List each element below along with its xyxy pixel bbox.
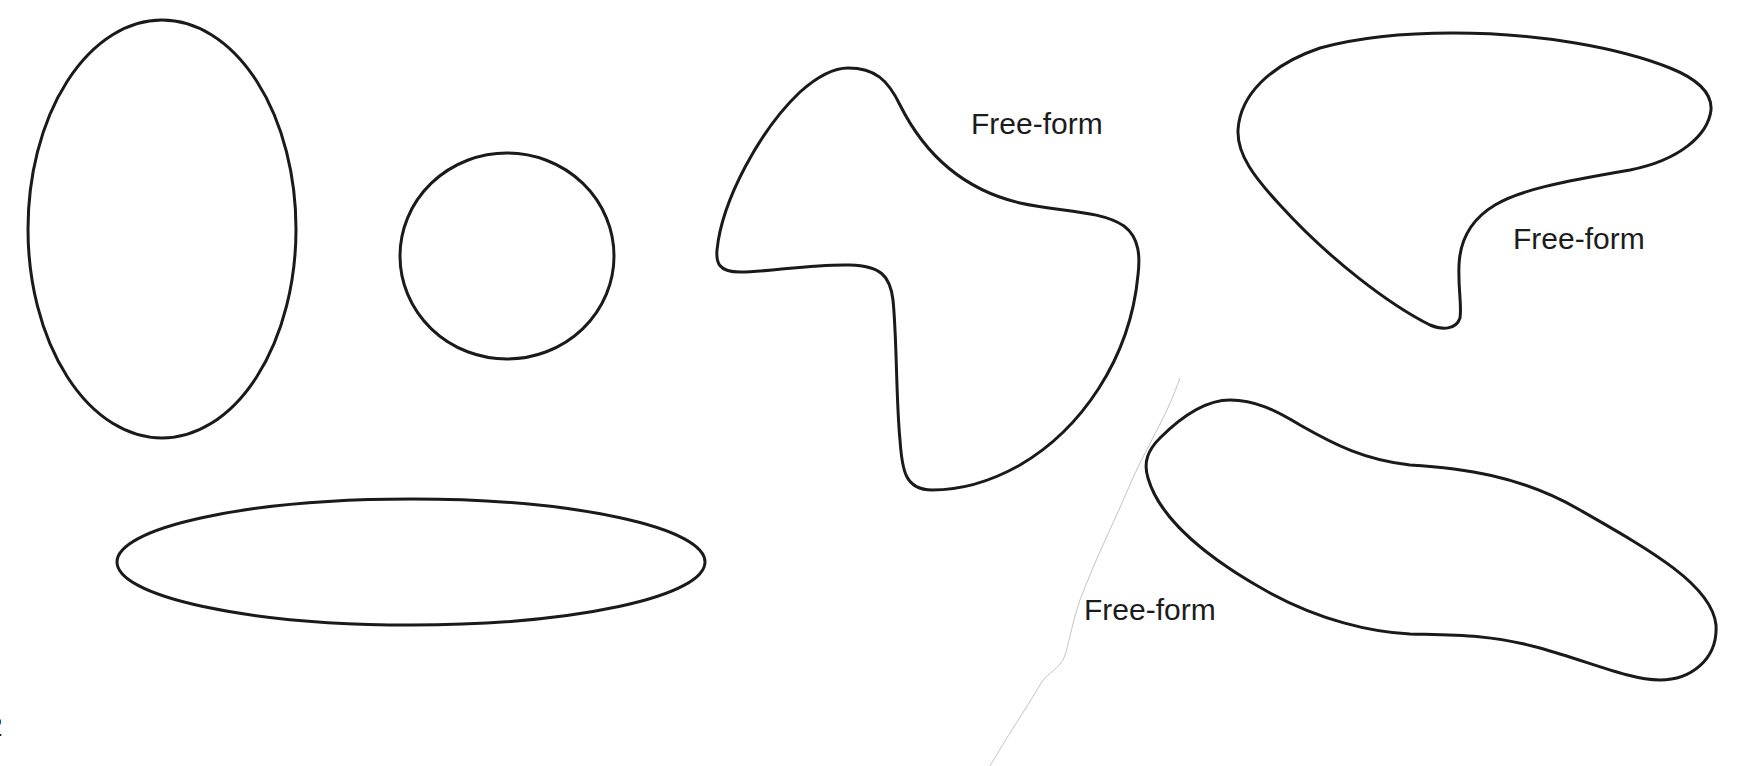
shapes-canvas [0, 0, 1747, 766]
free-form-label-1: Free-form [971, 109, 1103, 139]
paper-crack-line [990, 378, 1180, 766]
cropped-edge-character: 2 [0, 713, 3, 741]
free-form-label-2: Free-form [1513, 224, 1645, 254]
wide-ellipse-shape [117, 499, 705, 625]
tall-ellipse-shape [28, 20, 296, 438]
free-form-shape-2 [1238, 33, 1711, 328]
free-form-shape-3 [1146, 400, 1716, 680]
free-form-label-3: Free-form [1084, 595, 1216, 625]
circle-shape [400, 153, 614, 359]
